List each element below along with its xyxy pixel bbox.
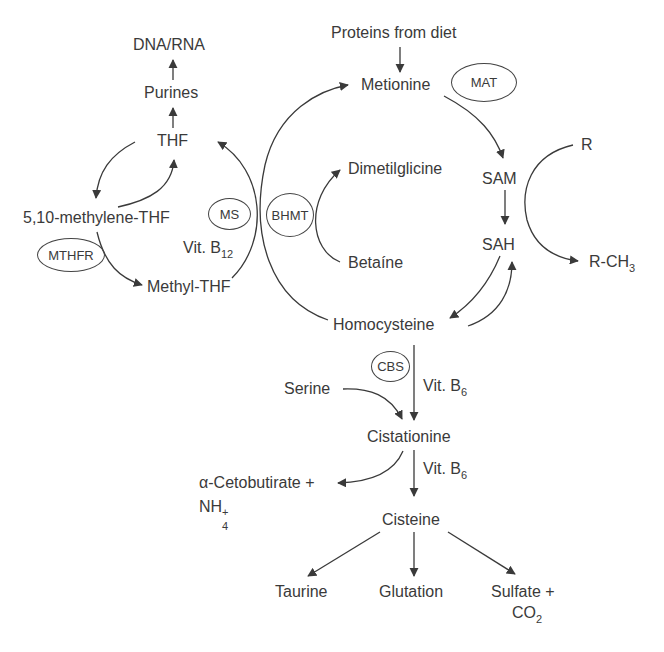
node-r-ch3: R-CH3 xyxy=(589,253,635,272)
node-glutation: Glutation xyxy=(379,583,443,601)
node-r: R xyxy=(581,136,593,154)
cofactor-vit-b6-2-subscript: 6 xyxy=(461,469,467,481)
node-proteins-from-diet: Proteins from diet xyxy=(331,24,456,42)
enzyme-cbs: CBS xyxy=(371,351,410,382)
node-sulfate: Sulfate + xyxy=(491,583,555,601)
node-homocysteine: Homocysteine xyxy=(333,316,434,334)
node-r-ch3-text: R-CH xyxy=(589,253,629,270)
cofactor-vit-b6-1: Vit. B6 xyxy=(423,377,467,396)
node-nh4-text: NH xyxy=(199,498,222,515)
node-betaine: Betaíne xyxy=(348,254,403,272)
node-r-ch3-subscript: 3 xyxy=(629,262,635,274)
enzyme-bhmt: BHMT xyxy=(266,193,314,237)
node-sah: SAH xyxy=(482,236,515,254)
node-methyl-thf: Methyl-THF xyxy=(147,278,231,296)
cofactor-vit-b12-text: Vit. B xyxy=(183,239,221,256)
node-nh4-subscript: 4 xyxy=(222,517,228,535)
enzyme-mat: MAT xyxy=(451,63,517,102)
node-serine: Serine xyxy=(284,380,330,398)
enzyme-ms: MS xyxy=(208,198,251,230)
cofactor-vit-b6-2-text: Vit. B xyxy=(423,460,461,477)
node-cistationine: Cistationine xyxy=(367,428,451,446)
node-dna-rna: DNA/RNA xyxy=(133,36,205,54)
cofactor-vit-b12-subscript: 12 xyxy=(221,248,233,260)
node-purines: Purines xyxy=(144,84,198,102)
node-co2-subscript: 2 xyxy=(536,613,542,625)
node-taurine: Taurine xyxy=(275,583,327,601)
node-nh4: NH + 4 xyxy=(199,498,230,516)
node-methylene-thf: 5,10-methylene-THF xyxy=(23,209,170,227)
cofactor-vit-b6-2: Vit. B6 xyxy=(423,460,467,479)
node-cisteine: Cisteine xyxy=(382,511,440,529)
node-co2: CO2 xyxy=(512,604,542,623)
node-metionine: Metionine xyxy=(361,76,430,94)
cofactor-vit-b12: Vit. B12 xyxy=(183,239,233,258)
cofactor-vit-b6-1-text: Vit. B xyxy=(423,377,461,394)
enzyme-mthfr: MTHFR xyxy=(37,238,105,272)
pathway-diagram: DNA/RNA Purines THF 5,10-methylene-THF M… xyxy=(0,0,664,652)
node-sam: SAM xyxy=(482,170,517,188)
node-thf: THF xyxy=(157,132,188,150)
node-cetobutirate: α-Cetobutirate + xyxy=(199,474,315,492)
pathway-arrows xyxy=(0,0,664,652)
node-co2-text: CO xyxy=(512,604,536,621)
cofactor-vit-b6-1-subscript: 6 xyxy=(461,386,467,398)
node-dimetilglicine: Dimetilglicine xyxy=(348,160,442,178)
